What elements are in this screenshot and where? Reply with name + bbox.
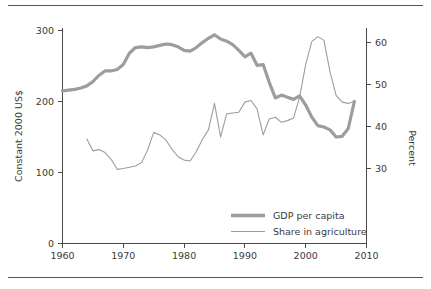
y-tick-label-0: 0 [48,238,54,249]
x-tick-label-2010: 2010 [354,250,378,261]
series-line-gdp-per-capita [63,35,355,137]
x-tick-label-2000: 2000 [294,250,318,261]
legend-label-share-in-agriculture: Share in agriculture [273,226,367,237]
y-tick-label-200: 200 [36,96,54,107]
x-tick-label-1960: 1960 [50,250,74,261]
figure-container: 0 100 200 300 30 40 50 60 1960 1970 1980… [0,0,431,289]
chart-legend: GDP per capita Share in agriculture [231,210,367,237]
y2-tick-label-30: 30 [375,163,387,174]
y-axis-left-ticks [58,31,63,244]
x-tick-label-1990: 1990 [233,250,257,261]
line-chart: 0 100 200 300 30 40 50 60 1960 1970 1980… [0,0,431,289]
y-axis-left-title: Constant 2000 US$ [13,90,24,182]
y-axis-right-title: Percent [407,130,418,166]
x-tick-label-1970: 1970 [111,250,135,261]
y2-tick-label-60: 60 [375,37,387,48]
y2-tick-label-50: 50 [375,79,387,90]
y-axis-right-ticks [367,43,372,169]
y-tick-label-100: 100 [36,167,54,178]
y-tick-label-300: 300 [36,25,54,36]
x-axis-ticks [63,244,367,249]
legend-label-gdp-per-capita: GDP per capita [273,210,345,221]
x-tick-label-1980: 1980 [172,250,196,261]
y2-tick-label-40: 40 [375,121,387,132]
